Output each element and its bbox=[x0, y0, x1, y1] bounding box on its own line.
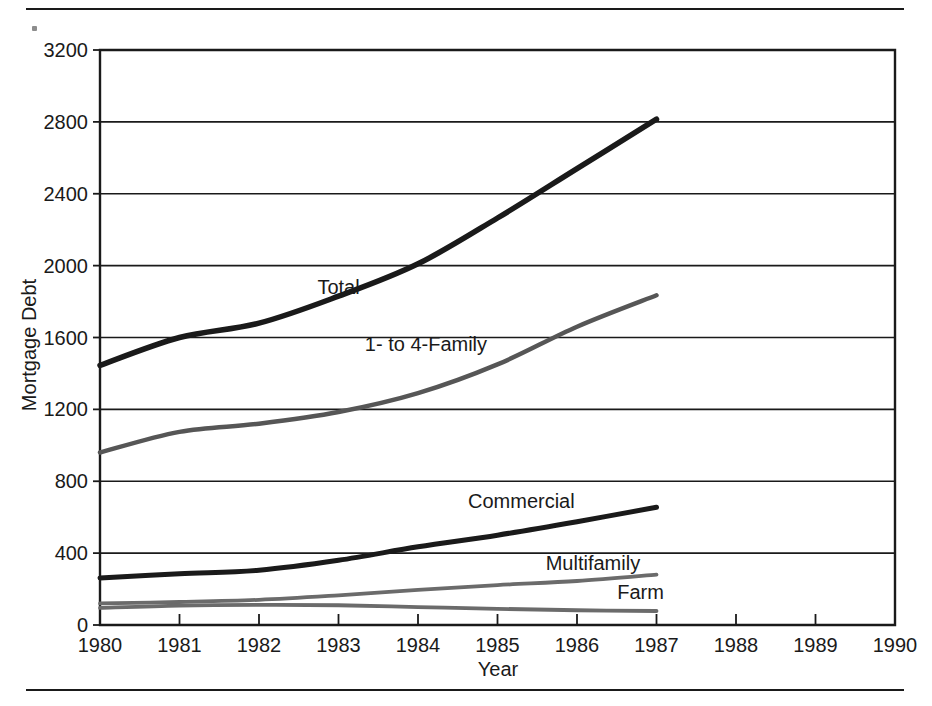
x-tick-label-1983: 1983 bbox=[316, 634, 361, 656]
y-tick-label-2000: 2000 bbox=[44, 255, 89, 277]
y-tick-label-2800: 2800 bbox=[44, 111, 89, 133]
y-tick-label-1600: 1600 bbox=[44, 327, 89, 349]
series-label-commercial: Commercial bbox=[468, 490, 575, 512]
y-axis-title: Mortgage Debt bbox=[18, 278, 40, 411]
x-tick-label-1984: 1984 bbox=[396, 634, 441, 656]
y-tick-label-800: 800 bbox=[55, 470, 88, 492]
x-tick-label-1986: 1986 bbox=[555, 634, 600, 656]
gridlines-group bbox=[100, 50, 895, 553]
x-tickmarks-group bbox=[100, 614, 895, 625]
y-tick-label-0: 0 bbox=[77, 614, 88, 636]
x-tick-label-1988: 1988 bbox=[714, 634, 759, 656]
y-tick-label-1200: 1200 bbox=[44, 398, 89, 420]
figure-container: 0400800120016002000240028003200 19801981… bbox=[0, 0, 932, 706]
y-tick-label-2400: 2400 bbox=[44, 183, 89, 205]
series-line-1-to-4-family bbox=[100, 295, 657, 452]
x-tick-label-1990: 1990 bbox=[873, 634, 918, 656]
y-tick-labels-group: 0400800120016002000240028003200 bbox=[44, 39, 101, 636]
x-tick-label-1982: 1982 bbox=[237, 634, 282, 656]
x-tick-label-1981: 1981 bbox=[157, 634, 202, 656]
x-tick-label-1987: 1987 bbox=[634, 634, 679, 656]
y-tick-label-400: 400 bbox=[55, 542, 88, 564]
x-tick-label-1985: 1985 bbox=[475, 634, 520, 656]
series-line-farm bbox=[100, 605, 657, 611]
x-tick-labels-group: 1980198119821983198419851986198719881989… bbox=[78, 634, 918, 656]
series-label-multifamily: Multifamily bbox=[546, 552, 640, 574]
x-tick-label-1980: 1980 bbox=[78, 634, 123, 656]
line-chart: 0400800120016002000240028003200 19801981… bbox=[0, 0, 932, 706]
series-line-multifamily bbox=[100, 575, 657, 604]
series-label-1-to-4-family: 1- to 4-Family bbox=[365, 333, 487, 355]
x-axis-title: Year bbox=[478, 658, 519, 680]
series-label-total: Total bbox=[317, 276, 359, 298]
x-tick-label-1989: 1989 bbox=[793, 634, 838, 656]
y-tick-label-3200: 3200 bbox=[44, 39, 89, 61]
series-label-farm: Farm bbox=[617, 581, 664, 603]
